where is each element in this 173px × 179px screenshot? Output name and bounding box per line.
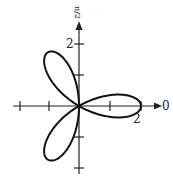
polar-axis-label: 0	[162, 100, 170, 112]
polar-plot	[0, 0, 173, 179]
vertical-tick-label: 2	[66, 38, 74, 50]
arrow-up-icon	[76, 21, 83, 30]
vertical-axis-label: π/2	[73, 6, 81, 19]
horizontal-tick-label: 2	[133, 113, 141, 125]
arrow-right-icon	[154, 103, 162, 110]
